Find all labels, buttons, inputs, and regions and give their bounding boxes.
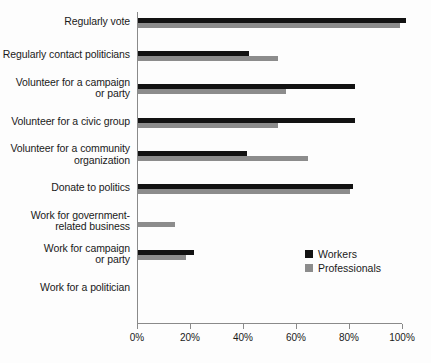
x-axis-tick bbox=[190, 324, 191, 329]
category-label: Work for a politician bbox=[0, 282, 130, 294]
x-axis-line bbox=[137, 323, 402, 324]
legend-item: Professionals bbox=[305, 262, 381, 274]
category-label-line: Work for a politician bbox=[0, 282, 130, 294]
category-label: Regularly vote bbox=[0, 16, 130, 28]
x-axis-tick-label: 40% bbox=[233, 332, 253, 343]
legend-item: Workers bbox=[305, 248, 381, 260]
x-axis-tick-label: 0% bbox=[130, 332, 144, 343]
legend-label: Workers bbox=[318, 248, 357, 260]
x-axis-tick-label: 20% bbox=[180, 332, 200, 343]
category-label: Volunteer for a communityorganization bbox=[0, 143, 130, 166]
x-axis-tick-label: 100% bbox=[389, 332, 415, 343]
bar-professionals bbox=[138, 23, 400, 28]
bar-professionals bbox=[138, 56, 278, 61]
x-axis-tick-label: 80% bbox=[339, 332, 359, 343]
category-label: Work for campaignor party bbox=[0, 243, 130, 266]
x-axis-tick-label: 60% bbox=[286, 332, 306, 343]
category-label: Volunteer for a campaignor party bbox=[0, 77, 130, 100]
plot-area: 0%20%40%60%80%100% bbox=[137, 12, 402, 324]
category-label: Work for government-related business bbox=[0, 210, 130, 233]
chart-legend: WorkersProfessionals bbox=[305, 248, 381, 276]
category-label-line: Donate to politics bbox=[0, 182, 130, 194]
legend-swatch-icon bbox=[305, 250, 313, 258]
category-axis-labels: Regularly voteRegularly contact politici… bbox=[0, 0, 136, 320]
bar-group bbox=[138, 184, 403, 194]
category-label: Volunteer for a civic group bbox=[0, 116, 130, 128]
category-label-line: organization bbox=[0, 155, 130, 167]
bar-professionals bbox=[138, 255, 186, 260]
x-axis-tick bbox=[243, 324, 244, 329]
bar-professionals bbox=[138, 222, 175, 227]
bar-group bbox=[138, 284, 403, 294]
bar-group bbox=[138, 151, 403, 161]
category-label-line: Regularly contact politicians bbox=[0, 49, 130, 61]
category-label-line: or party bbox=[0, 254, 130, 266]
category-label-line: Volunteer for a civic group bbox=[0, 116, 130, 128]
category-label-line: or party bbox=[0, 88, 130, 100]
x-axis-tick bbox=[137, 324, 138, 329]
bar-professionals bbox=[138, 89, 286, 94]
legend-label: Professionals bbox=[318, 262, 381, 274]
legend-swatch-icon bbox=[305, 264, 313, 272]
bar-professionals bbox=[138, 156, 308, 161]
x-axis-tick bbox=[402, 324, 403, 329]
bar-group bbox=[138, 18, 403, 28]
bar-group bbox=[138, 118, 403, 128]
bar-group bbox=[138, 51, 403, 61]
bar-professionals bbox=[138, 123, 278, 128]
bar-professionals bbox=[138, 189, 350, 194]
bar-chart: Regularly voteRegularly contact politici… bbox=[0, 0, 431, 363]
category-label-line: Regularly vote bbox=[0, 16, 130, 28]
bar-group bbox=[138, 84, 403, 94]
category-label-line: related business bbox=[0, 221, 130, 233]
category-label: Donate to politics bbox=[0, 182, 130, 194]
category-label: Regularly contact politicians bbox=[0, 49, 130, 61]
x-axis-tick bbox=[349, 324, 350, 329]
bar-group bbox=[138, 217, 403, 227]
x-axis-tick bbox=[296, 324, 297, 329]
